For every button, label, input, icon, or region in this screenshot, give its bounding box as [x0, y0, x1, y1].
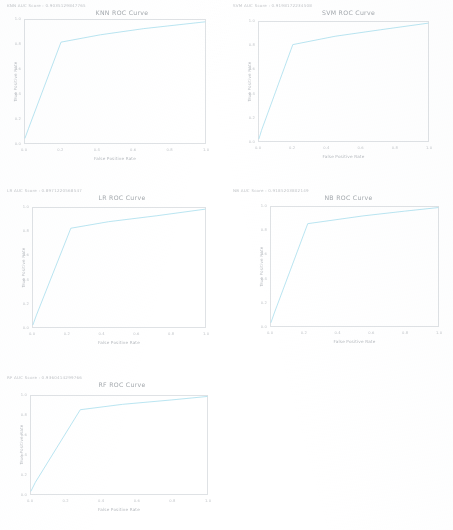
x-tick-label: 0.4: [323, 146, 329, 150]
roc-curve-svg: [31, 396, 207, 494]
y-tick-label: 0.8: [256, 228, 267, 232]
y-tick-label: 0.0: [16, 493, 27, 497]
figure-lr: LR AUC Score : 0.8971220568547LR ROC Cur…: [0, 185, 226, 363]
x-tick-label: 0.8: [402, 331, 408, 335]
y-axis-label: True Positive Rate: [259, 245, 264, 287]
roc-curve-svg: [33, 208, 205, 327]
auc-score-text-knn: KNN AUC Score : 0.9035129847765: [7, 3, 86, 8]
x-tick-label: 0.2: [57, 148, 63, 152]
x-tick-label: 0.2: [64, 332, 70, 336]
roc-line-knn: [25, 22, 205, 138]
x-tick-label: 0.0: [21, 148, 27, 152]
y-tick-label: 0.8: [10, 42, 21, 46]
y-tick-label: 0.0: [256, 325, 267, 329]
x-tick-label: 0.4: [94, 148, 100, 152]
y-tick-label: 1.0: [16, 393, 27, 397]
x-tick-label: 0.2: [63, 499, 69, 503]
y-tick-label: 1.0: [10, 17, 21, 21]
chart-title-text: SVM ROC Curve: [322, 9, 375, 16]
y-tick-label: 0.8: [244, 43, 255, 47]
figure-knn: KNN AUC Score : 0.9035129847765KNN ROC C…: [0, 0, 226, 180]
notebook-output-grid: KNN AUC Score : 0.9035129847765KNN ROC C…: [0, 0, 453, 530]
x-tick-label: 0.2: [301, 331, 307, 335]
chart-title-lr: LR ROC Curve: [0, 194, 226, 201]
y-tick-label: 0.0: [10, 142, 21, 146]
x-axis-label: False Positive Rate: [334, 339, 376, 344]
plot-area-svm: [258, 21, 429, 142]
roc-line-lr: [33, 209, 205, 324]
x-tick-label: 0.4: [98, 499, 104, 503]
auc-score-text-rf: RF AUC Score : 0.9360414299766: [7, 375, 82, 380]
x-axis-label: False Positive Rate: [98, 340, 140, 345]
figure-nb: NB AUC Score : 0.9185203802149NB ROC Cur…: [226, 185, 453, 363]
x-tick-label: 0.6: [358, 146, 364, 150]
x-axis-label: False Positive Rate: [94, 156, 136, 161]
chart-title-text: LR ROC Curve: [98, 194, 145, 201]
y-axis-label: True Positive Rate: [19, 424, 24, 466]
x-tick-label: 1.0: [436, 331, 442, 335]
chart-title-rf: RF ROC Curve: [0, 381, 226, 388]
y-tick-label: 0.2: [244, 116, 255, 120]
plot-area-rf: [30, 395, 208, 495]
roc-curve-svg: [259, 22, 428, 141]
x-tick-label: 0.8: [392, 146, 398, 150]
x-tick-label: 0.6: [368, 331, 374, 335]
auc-score-text-lr: LR AUC Score : 0.8971220568547: [7, 188, 82, 193]
x-tick-label: 0.8: [168, 332, 174, 336]
roc-curve-svg: [271, 207, 438, 326]
y-tick-label: 0.2: [256, 301, 267, 305]
x-tick-label: 0.4: [99, 332, 105, 336]
x-axis-label: False Positive Rate: [323, 154, 365, 159]
y-tick-label: 0.2: [18, 302, 29, 306]
y-tick-label: 1.0: [18, 205, 29, 209]
plot-area-knn: [24, 19, 206, 144]
y-tick-label: 0.2: [10, 117, 21, 121]
y-tick-label: 0.8: [18, 229, 29, 233]
x-axis-label: False Positive Rate: [98, 507, 140, 512]
y-tick-label: 0.0: [244, 140, 255, 144]
x-tick-label: 0.4: [335, 331, 341, 335]
roc-line-svm: [259, 23, 428, 138]
y-axis-label: True Positive Rate: [247, 60, 252, 102]
x-tick-label: 0.6: [134, 499, 140, 503]
y-tick-label: 0.0: [18, 326, 29, 330]
x-tick-label: 1.0: [205, 499, 211, 503]
x-tick-label: 0.2: [289, 146, 295, 150]
x-tick-label: 0.0: [27, 499, 33, 503]
x-tick-label: 0.6: [133, 332, 139, 336]
figure-rf: RF AUC Score : 0.9360414299766RF ROC Cur…: [0, 372, 226, 530]
chart-title-knn: KNN ROC Curve: [0, 9, 226, 16]
chart-title-svm: SVM ROC Curve: [226, 9, 453, 16]
x-tick-label: 1.0: [203, 332, 209, 336]
y-tick-label: 1.0: [256, 204, 267, 208]
y-tick-label: 0.8: [16, 413, 27, 417]
x-tick-label: 0.8: [169, 499, 175, 503]
x-tick-label: 1.0: [426, 146, 432, 150]
y-tick-label: 0.2: [16, 473, 27, 477]
roc-line-rf: [31, 396, 207, 491]
y-axis-label: True Positive Rate: [13, 60, 18, 102]
plot-area-nb: [270, 206, 439, 327]
y-axis-label: True Positive Rate: [21, 246, 26, 288]
x-tick-label: 0.6: [130, 148, 136, 152]
y-tick-label: 1.0: [244, 19, 255, 23]
chart-title-text: KNN ROC Curve: [96, 9, 149, 16]
chart-title-text: RF ROC Curve: [98, 381, 145, 388]
x-tick-label: 1.0: [203, 148, 209, 152]
x-tick-label: 0.0: [255, 146, 261, 150]
chart-title-text: NB ROC Curve: [324, 194, 372, 201]
chart-title-nb: NB ROC Curve: [226, 194, 453, 201]
figure-svm: SVM AUC Score : 0.9198172234508SVM ROC C…: [226, 0, 453, 180]
plot-area-lr: [32, 207, 206, 328]
roc-line-nb: [271, 208, 438, 323]
x-tick-label: 0.0: [267, 331, 273, 335]
auc-score-text-svm: SVM AUC Score : 0.9198172234508: [233, 3, 312, 8]
x-tick-label: 0.8: [167, 148, 173, 152]
auc-score-text-nb: NB AUC Score : 0.9185203802149: [233, 188, 309, 193]
x-tick-label: 0.0: [29, 332, 35, 336]
roc-curve-svg: [25, 20, 205, 143]
